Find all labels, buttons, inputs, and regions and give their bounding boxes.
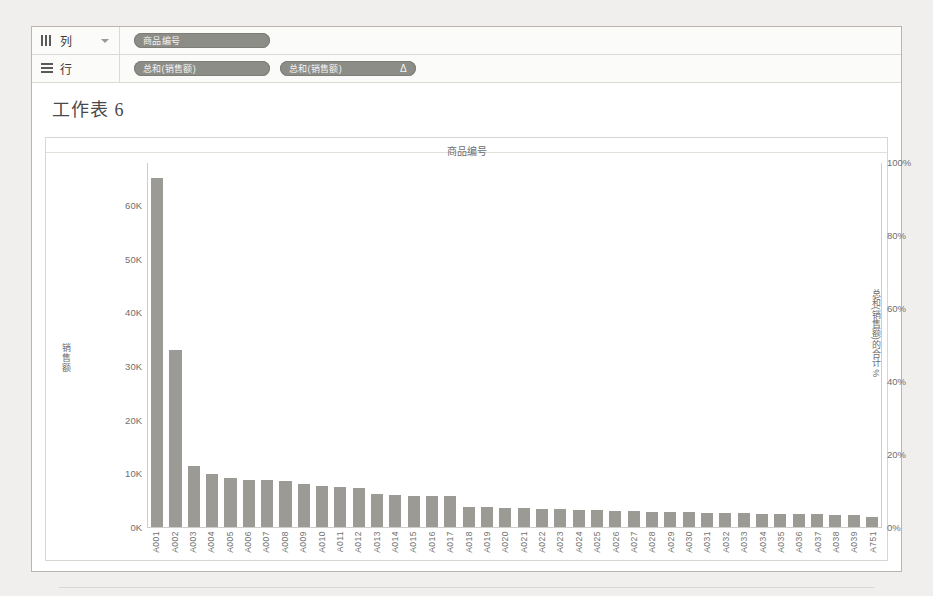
x-axis-tick-label: A027: [629, 531, 639, 553]
plot-area-wrapper: 销售额 总和(销售额)的合计 % 0K10K20K30K40K50K60K 0%…: [46, 155, 887, 560]
x-axis-tick-cell[interactable]: A019: [478, 528, 496, 586]
chevron-down-icon[interactable]: [101, 39, 109, 43]
worksheet-window: 列 商品编号 行 总和(销售额) 总和(销售额) Δ 工作表 6 商品编号: [31, 26, 902, 572]
x-axis-tick-cell[interactable]: A024: [570, 528, 588, 586]
x-axis-tick-cell[interactable]: A023: [551, 528, 569, 586]
x-axis-tick-cell[interactable]: A028: [643, 528, 661, 586]
x-axis-tick-label: A017: [445, 531, 455, 553]
x-axis-tick-cell[interactable]: A012: [349, 528, 367, 586]
x-axis-tick-label: A023: [555, 531, 565, 553]
x-axis-tick-cell[interactable]: A751: [864, 528, 882, 586]
x-axis-rule: [59, 587, 874, 588]
x-axis-tick-label: A010: [317, 531, 327, 553]
rows-icon: [41, 63, 53, 74]
x-axis-tick-cell[interactable]: A004: [202, 528, 220, 586]
x-axis-tick-label: A025: [592, 531, 602, 553]
x-axis-tick-cell[interactable]: A018: [459, 528, 477, 586]
x-axis-tick-label: A022: [537, 531, 547, 553]
x-axis-tick-cell[interactable]: A027: [625, 528, 643, 586]
y-axis-right-tick: 100%: [887, 158, 911, 168]
x-axis-tick-cell[interactable]: A007: [257, 528, 275, 586]
x-axis-tick-cell[interactable]: A022: [533, 528, 551, 586]
x-axis-tick-cell[interactable]: A017: [441, 528, 459, 586]
x-axis-tick-cell[interactable]: A008: [276, 528, 294, 586]
x-axis-tick-label: A002: [170, 531, 180, 553]
x-axis-tick-label: A029: [666, 531, 676, 553]
rows-shelf[interactable]: 行 总和(销售额) 总和(销售额) Δ: [32, 55, 901, 83]
x-axis-tick-label: A008: [280, 531, 290, 553]
x-axis-tick-label: A009: [298, 531, 308, 553]
x-axis-tick-cell[interactable]: A021: [515, 528, 533, 586]
pill-product-id[interactable]: 商品编号: [134, 33, 270, 48]
x-axis-tick-cell[interactable]: A003: [184, 528, 202, 586]
y-axis-left-tick: 40K: [125, 309, 142, 319]
chart-title: 商品编号: [46, 138, 887, 153]
y-axis-right-tick: 80%: [887, 231, 906, 241]
x-axis-tick-cell[interactable]: A015: [404, 528, 422, 586]
pill-sum-sales-table-calc[interactable]: 总和(销售额) Δ: [280, 61, 416, 76]
x-axis-tick-label: A028: [647, 531, 657, 553]
x-axis-tick-label: A037: [813, 531, 823, 553]
pill-sum-sales[interactable]: 总和(销售额): [134, 61, 270, 76]
columns-shelf[interactable]: 列 商品编号: [32, 27, 901, 55]
y-axis-right-tick: 20%: [887, 450, 906, 460]
x-axis-tick-cell[interactable]: A039: [845, 528, 863, 586]
x-axis-tick-label: A018: [464, 531, 474, 553]
x-axis-tick-cell[interactable]: A035: [772, 528, 790, 586]
pill-label: 总和(销售额): [143, 62, 196, 75]
x-axis-tick-cell[interactable]: A006: [239, 528, 257, 586]
y-axis-left-tick: 20K: [125, 416, 142, 426]
x-axis-tick-cell[interactable]: A016: [423, 528, 441, 586]
x-axis-ticks: A001A002A003A004A005A006A007A008A009A010…: [147, 528, 882, 586]
rows-pill-list: 总和(销售额) 总和(销售额) Δ: [120, 61, 416, 76]
x-axis-tick-cell[interactable]: A025: [588, 528, 606, 586]
rows-shelf-label: 行: [32, 55, 120, 82]
x-axis-tick-cell[interactable]: A002: [165, 528, 183, 586]
x-axis-tick-cell[interactable]: A031: [698, 528, 716, 586]
y-axis-left-tick: 60K: [125, 201, 142, 211]
x-axis-tick-cell[interactable]: A010: [312, 528, 330, 586]
x-axis-tick-cell[interactable]: A038: [827, 528, 845, 586]
x-axis-tick-cell[interactable]: A011: [331, 528, 349, 586]
x-axis-tick-label: A013: [372, 531, 382, 553]
x-axis-tick-label: A036: [794, 531, 804, 553]
x-axis-tick-cell[interactable]: A036: [790, 528, 808, 586]
x-axis-tick-cell[interactable]: A005: [221, 528, 239, 586]
x-axis-tick-cell[interactable]: A020: [496, 528, 514, 586]
x-axis-tick-cell[interactable]: A034: [753, 528, 771, 586]
table-calculation-icon: Δ: [374, 63, 407, 74]
x-axis-tick-cell[interactable]: A029: [662, 528, 680, 586]
x-axis-tick-label: A038: [831, 531, 841, 553]
x-axis-tick-label: A015: [408, 531, 418, 553]
x-axis-tick-cell[interactable]: A026: [606, 528, 624, 586]
cumulative-line-series: [148, 163, 881, 528]
columns-shelf-text: 列: [60, 32, 72, 49]
x-axis-tick-label: A003: [188, 531, 198, 553]
x-axis-tick-label: A024: [574, 531, 584, 553]
x-axis-tick-cell[interactable]: A033: [735, 528, 753, 586]
x-axis-tick-label: A033: [739, 531, 749, 553]
plot-area[interactable]: [147, 163, 882, 528]
y-axis-left-tick: 50K: [125, 255, 142, 265]
x-axis-tick-cell[interactable]: A009: [294, 528, 312, 586]
y-axis-left-tick: 10K: [125, 470, 142, 480]
x-axis-tick-cell[interactable]: A013: [368, 528, 386, 586]
visualization-pane: 商品编号 销售额 总和(销售额)的合计 % 0K10K20K30K40K50K6…: [45, 137, 888, 561]
x-axis-tick-cell[interactable]: A014: [386, 528, 404, 586]
x-axis-tick-cell[interactable]: A032: [717, 528, 735, 586]
x-axis-tick-label: A011: [335, 531, 345, 552]
x-axis-tick-label: A012: [353, 531, 363, 553]
rows-shelf-text: 行: [60, 60, 72, 77]
x-axis-tick-label: A006: [243, 531, 253, 553]
x-axis-tick-cell[interactable]: A001: [147, 528, 165, 586]
x-axis-tick-cell[interactable]: A037: [809, 528, 827, 586]
x-axis-tick-cell[interactable]: A030: [680, 528, 698, 586]
x-axis-tick-label: A039: [849, 531, 859, 553]
x-axis-tick-label: A004: [206, 531, 216, 553]
y-axis-left-tick: 0K: [130, 523, 142, 533]
columns-shelf-label: 列: [32, 27, 120, 54]
x-axis-tick-label: A001: [151, 531, 161, 553]
x-axis-tick-label: A005: [225, 531, 235, 553]
x-axis-tick-label: A032: [721, 531, 731, 553]
y-axis-left-title: 销售额: [60, 343, 73, 373]
